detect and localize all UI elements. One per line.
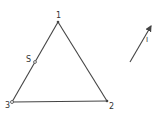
- vertex-2-label: 2: [109, 102, 114, 111]
- vector-i: I: [130, 26, 151, 62]
- edge-1-2: [58, 22, 107, 101]
- vertex-1-label: 1: [56, 11, 61, 20]
- vertex-2-node: [106, 100, 109, 103]
- triangle: 1 2 3 S: [5, 11, 114, 111]
- vertex-3-label: 3: [5, 101, 10, 110]
- diagram-canvas: 1 2 3 S I: [0, 0, 160, 119]
- edge-2-3: [12, 101, 107, 102]
- vertex-1-node: [57, 21, 60, 24]
- vector-label: I: [146, 36, 148, 44]
- vector-arrow: [130, 26, 151, 62]
- point-s-label: S: [26, 55, 31, 64]
- point-s-node: [34, 61, 37, 64]
- vertex-3-node: [11, 101, 14, 104]
